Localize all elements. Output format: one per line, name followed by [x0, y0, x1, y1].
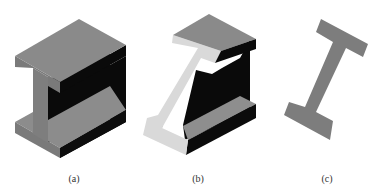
- caption-a: (a): [59, 172, 89, 186]
- i-beam-figure: [0, 0, 376, 195]
- panel-a-web-left: [33, 68, 48, 143]
- panel-c-i-section: [284, 19, 368, 140]
- caption-c: (c): [312, 172, 342, 186]
- panel-b-sectioned-i-beam: [143, 14, 256, 155]
- panel-a-i-beam-solid: [15, 19, 126, 158]
- panel-c-i-shape: [284, 19, 368, 140]
- caption-b: (b): [183, 172, 213, 186]
